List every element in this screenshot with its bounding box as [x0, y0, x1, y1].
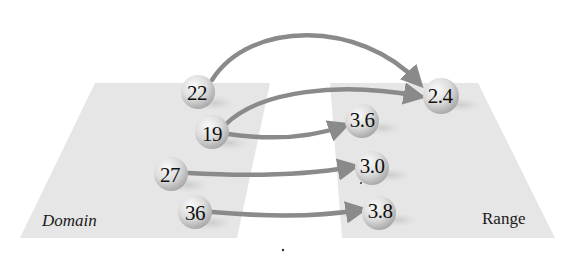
arrow-22-to-2.4	[212, 35, 418, 82]
range-value: 3.8	[368, 201, 393, 222]
speck	[282, 249, 284, 251]
range-value: 2.4	[428, 86, 453, 107]
domain-value: 36	[185, 203, 205, 224]
speck	[360, 182, 362, 184]
domain-value: 27	[160, 165, 180, 186]
range-value: 3.0	[360, 156, 385, 177]
range-value: 3.6	[350, 110, 375, 131]
domain-label: Domain	[42, 212, 97, 229]
domain-value: 19	[202, 124, 222, 145]
domain-value: 22	[187, 83, 207, 104]
range-label: Range	[482, 210, 525, 227]
domain-range-diagram: Domain Range 22 19 27 36 2.4 3.6 3.0 3.8	[0, 0, 563, 255]
